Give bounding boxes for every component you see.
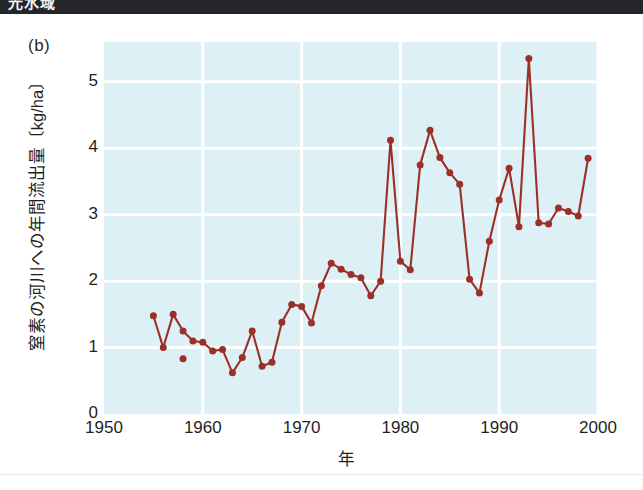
data-point: [417, 161, 424, 168]
y-tick-label: 3: [74, 204, 98, 224]
x-tick-label: 1970: [272, 418, 332, 438]
data-point: [515, 223, 522, 230]
x-tick-label: 1960: [173, 418, 233, 438]
data-point: [268, 359, 275, 366]
x-tick-label: 2000: [568, 418, 628, 438]
data-point: [377, 278, 384, 285]
data-point: [318, 282, 325, 289]
y-tick-label: 4: [74, 137, 98, 157]
data-point: [456, 181, 463, 188]
data-point: [239, 354, 246, 361]
y-tick-label: 2: [74, 270, 98, 290]
data-point: [249, 327, 256, 334]
data-point: [298, 303, 305, 310]
x-axis-title-text: 年: [338, 450, 355, 468]
x-tick-label: 1990: [469, 418, 529, 438]
line-chart-svg: [104, 42, 598, 414]
data-point: [348, 271, 355, 278]
x-tick-label: 1950: [74, 418, 134, 438]
data-point: [446, 169, 453, 176]
data-point: [476, 290, 483, 297]
header-band-text: 光水域: [8, 0, 56, 12]
data-point: [387, 137, 394, 144]
header-band: 光水域: [0, 0, 643, 14]
y-tick-label: 5: [74, 71, 98, 91]
data-point: [506, 165, 513, 172]
bottom-divider: [0, 474, 643, 475]
data-point: [575, 213, 582, 220]
data-point-isolated: [180, 355, 187, 362]
data-point: [199, 339, 206, 346]
isolated-marker: [180, 355, 187, 362]
y-axis-ticks: 012345: [72, 42, 98, 414]
data-point: [496, 197, 503, 204]
data-point: [308, 319, 315, 326]
vertical-gridlines: [203, 42, 598, 414]
data-point: [180, 327, 187, 334]
horizontal-gridlines: [104, 82, 598, 348]
data-point: [535, 219, 542, 226]
y-axis-title: 窒素の河川への年間流出量〔kg/ha〕: [24, 42, 50, 382]
data-point: [160, 344, 167, 351]
data-point: [288, 301, 295, 308]
x-axis-title: 年: [0, 446, 643, 470]
figure-panel-b: (b) 窒素の河川への年間流出量〔kg/ha〕 012345 195019601…: [0, 14, 643, 490]
data-point: [189, 337, 196, 344]
data-point: [545, 221, 552, 228]
data-point: [585, 155, 592, 162]
data-point: [367, 292, 374, 299]
data-point: [209, 347, 216, 354]
x-axis-ticks: 195019601970198019902000: [104, 418, 598, 442]
data-point: [229, 369, 236, 376]
data-point: [338, 266, 345, 273]
data-point: [150, 312, 157, 319]
data-point: [259, 363, 266, 370]
data-point: [397, 258, 404, 265]
data-point: [219, 346, 226, 353]
data-point: [436, 154, 443, 161]
data-point: [407, 266, 414, 273]
data-point: [328, 260, 335, 267]
data-point: [555, 205, 562, 212]
x-tick-label: 1980: [370, 418, 430, 438]
y-tick-label: 1: [74, 337, 98, 357]
data-point: [278, 319, 285, 326]
data-point: [466, 276, 473, 283]
data-point: [525, 55, 532, 62]
data-point: [565, 208, 572, 215]
data-point: [357, 274, 364, 281]
data-point: [427, 127, 434, 134]
data-point: [486, 238, 493, 245]
data-point: [170, 311, 177, 318]
plot-area: [104, 42, 598, 414]
